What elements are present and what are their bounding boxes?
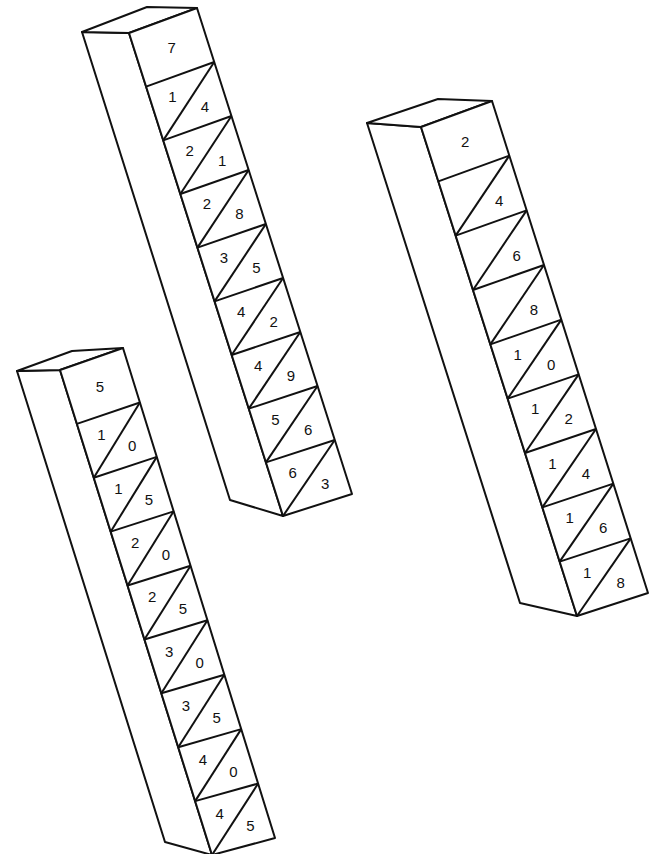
units-digit: 0 (128, 437, 136, 454)
tens-digit: 4 (199, 751, 207, 768)
units-digit: 4 (201, 98, 209, 115)
tens-digit: 1 (97, 426, 105, 443)
units-digit: 8 (235, 205, 243, 222)
tens-digit: 3 (220, 249, 228, 266)
units-digit: 8 (616, 574, 624, 591)
units-digit: 5 (145, 491, 153, 508)
tens-digit: 4 (254, 357, 262, 374)
index-digit: 5 (96, 378, 104, 395)
units-digit: 2 (270, 313, 278, 330)
tens-digit: 2 (185, 142, 193, 159)
units-digit: 0 (162, 546, 170, 563)
tens-digit: 2 (148, 588, 156, 605)
units-digit: 0 (196, 654, 204, 671)
rod-2: 24681012141618 (367, 99, 648, 616)
tens-digit: 2 (203, 195, 211, 212)
tens-digit: 6 (288, 464, 296, 481)
tens-digit: 2 (131, 534, 139, 551)
tens-digit: 4 (216, 805, 224, 822)
units-digit: 1 (218, 152, 226, 169)
units-digit: 0 (229, 763, 237, 780)
tens-digit: 4 (237, 303, 245, 320)
units-digit: 5 (179, 600, 187, 617)
units-digit: 6 (599, 519, 607, 536)
units-digit: 4 (582, 465, 590, 482)
tens-digit: 1 (514, 346, 522, 363)
units-digit: 6 (304, 421, 312, 438)
tens-digit: 1 (548, 455, 556, 472)
tens-digit: 1 (583, 564, 591, 581)
tens-digit: 1 (168, 88, 176, 105)
index-digit: 7 (167, 39, 175, 56)
units-digit: 2 (564, 410, 572, 427)
units-digit: 3 (321, 475, 329, 492)
napier-bones-diagram: 71421283542495663 51015202530354045 2468… (0, 0, 662, 854)
tens-digit: 1 (566, 509, 574, 526)
units-digit: 9 (287, 367, 295, 384)
units-digit: 6 (512, 247, 520, 264)
units-digit: 5 (212, 709, 220, 726)
tens-digit: 3 (182, 697, 190, 714)
tens-digit: 3 (165, 643, 173, 660)
tens-digit: 1 (114, 480, 122, 497)
units-digit: 8 (530, 301, 538, 318)
tens-digit: 1 (531, 400, 539, 417)
tens-digit: 5 (271, 411, 279, 428)
units-digit: 0 (547, 356, 555, 373)
units-digit: 4 (495, 192, 503, 209)
index-digit: 2 (461, 133, 469, 150)
units-digit: 5 (252, 259, 260, 276)
units-digit: 5 (246, 817, 254, 834)
